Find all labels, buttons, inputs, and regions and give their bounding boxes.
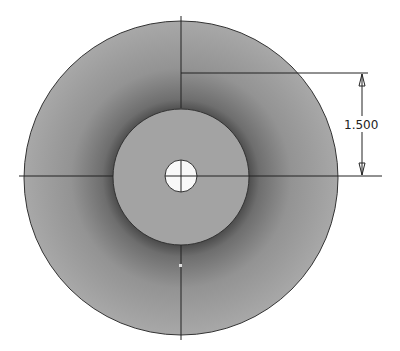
sketch-point[interactable] <box>179 264 182 267</box>
dimension-1500[interactable]: 1.500 <box>344 74 380 175</box>
dimension-label[interactable]: 1.500 <box>344 118 378 132</box>
sketch-canvas: 1.500 <box>0 0 400 351</box>
